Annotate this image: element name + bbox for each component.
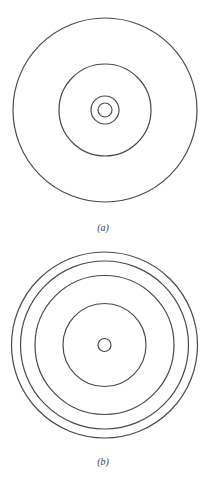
- panel-b-label: (b): [0, 456, 206, 468]
- panel-b-circle-3: [35, 276, 174, 415]
- panel-a-circles: [13, 18, 197, 202]
- panel-a-circle-2: [59, 64, 151, 156]
- panel-b-circle-2: [21, 261, 189, 429]
- panel-b-circle-4: [63, 304, 146, 387]
- panel-a-circle-1: [13, 18, 197, 202]
- panel-a-label: (a): [0, 222, 206, 234]
- panel-b-circle-5: [98, 339, 111, 352]
- panel-a-circle-3: [91, 96, 119, 124]
- panel-b-circle-1: [12, 252, 198, 438]
- figure-canvas: [0, 0, 206, 478]
- concentric-circles-figure: (a) (b): [0, 0, 206, 478]
- panel-b-circles: [12, 252, 198, 438]
- panel-a-circle-4: [98, 103, 112, 117]
